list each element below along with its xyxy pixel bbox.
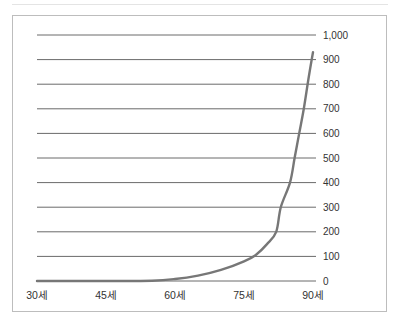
data-line bbox=[37, 52, 313, 281]
y-tick-label: 900 bbox=[323, 54, 340, 65]
y-tick-label: 1,000 bbox=[323, 30, 348, 41]
y-tick-label: 600 bbox=[323, 128, 340, 139]
x-tick-label: 75세 bbox=[233, 289, 255, 301]
y-tick-label: 300 bbox=[323, 202, 340, 213]
x-axis-labels: 30세45세60세75세90세 bbox=[26, 289, 324, 301]
y-tick-label: 0 bbox=[323, 276, 329, 287]
y-tick-label: 200 bbox=[323, 226, 340, 237]
x-tick-label: 90세 bbox=[302, 289, 324, 301]
gridlines bbox=[37, 35, 316, 281]
x-tick-label: 60세 bbox=[164, 289, 186, 301]
y-tick-label: 800 bbox=[323, 79, 340, 90]
y-tick-label: 500 bbox=[323, 153, 340, 164]
x-tick-label: 45세 bbox=[95, 289, 117, 301]
line-chart: 01002003004005006007008009001,000 30세45세… bbox=[0, 0, 400, 328]
y-tick-label: 400 bbox=[323, 177, 340, 188]
y-axis-labels: 01002003004005006007008009001,000 bbox=[323, 30, 348, 287]
x-tick-label: 30세 bbox=[26, 289, 48, 301]
y-tick-label: 700 bbox=[323, 103, 340, 114]
y-tick-label: 100 bbox=[323, 251, 340, 262]
